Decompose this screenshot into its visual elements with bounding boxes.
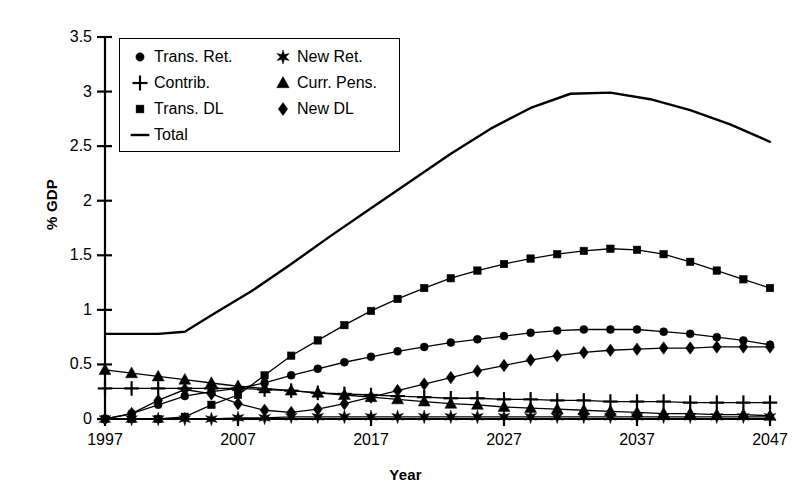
legend-entry: Trans. Ret.: [127, 45, 233, 69]
y-tick-label: 1: [30, 301, 92, 319]
legend-label: New DL: [296, 101, 354, 117]
x-tick-label: 2047: [752, 431, 788, 449]
y-tick-label: 2: [30, 192, 92, 210]
series-layer: [98, 245, 778, 426]
chart-legend: Trans. Ret.New Ret.Contrib.Curr. Pens.Tr…: [119, 38, 400, 152]
star-marker-icon: [270, 47, 296, 67]
series-trans-dl: [101, 245, 774, 423]
y-tick-label: 2.5: [30, 137, 92, 155]
legend-entry: Trans. DL: [127, 97, 224, 121]
legend-entry: New Ret.: [270, 45, 363, 69]
y-tick-label: 0.5: [30, 355, 92, 373]
y-tick-label: 0: [30, 410, 92, 428]
legend-label: Trans. Ret.: [153, 49, 233, 65]
square-marker-icon: [127, 99, 153, 119]
legend-label: New Ret.: [296, 49, 363, 65]
x-tick-label: 2037: [619, 431, 655, 449]
legend-label: Contrib.: [153, 75, 210, 91]
legend-entry: Total: [127, 123, 188, 147]
chart-figure: 00.511.522.533.5 19972007201720272037204…: [0, 0, 811, 501]
line-marker-icon: [127, 125, 153, 145]
legend-label: Total: [153, 127, 188, 143]
series-new-dl: [101, 341, 775, 426]
legend-label: Trans. DL: [153, 101, 224, 117]
legend-label: Curr. Pens.: [296, 75, 377, 91]
x-tick-label: 1997: [87, 431, 123, 449]
circle-marker-icon: [127, 47, 153, 67]
y-axis-title: % GDP: [43, 145, 60, 265]
y-tick-label: 1.5: [30, 246, 92, 264]
y-tick-label: 3.5: [30, 28, 92, 46]
triangle-marker-icon: [270, 73, 296, 93]
plus-marker-icon: [127, 73, 153, 93]
diamond-marker-icon: [270, 99, 296, 119]
legend-entry: New DL: [270, 97, 354, 121]
series-contrib: [98, 381, 778, 410]
legend-entry: Contrib.: [127, 71, 210, 95]
x-tick-label: 2017: [353, 431, 389, 449]
y-tick-label: 3: [30, 83, 92, 101]
x-tick-label: 2027: [486, 431, 522, 449]
x-tick-label: 2007: [220, 431, 256, 449]
x-axis-title: Year: [0, 466, 811, 483]
legend-entry: Curr. Pens.: [270, 71, 377, 95]
